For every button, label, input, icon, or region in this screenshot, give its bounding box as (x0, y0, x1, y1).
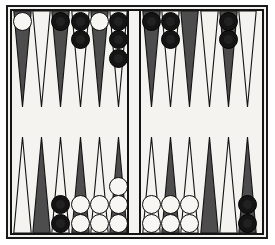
quadrant-top-right (141, 11, 256, 122)
quadrant-bottom-right (141, 122, 256, 233)
checker-black[interactable] (109, 30, 128, 49)
checker-white[interactable] (90, 12, 109, 31)
checker-white[interactable] (71, 195, 90, 214)
checker-black[interactable] (238, 195, 257, 214)
checker-black[interactable] (71, 30, 90, 49)
point-triangle (14, 137, 31, 233)
checker-white[interactable] (142, 195, 161, 214)
point-12[interactable] (238, 11, 257, 107)
checker-black[interactable] (109, 12, 128, 31)
checker-black[interactable] (142, 12, 161, 31)
checker-white[interactable] (180, 195, 199, 214)
point-2[interactable] (32, 11, 51, 107)
checker-white[interactable] (90, 214, 109, 233)
point-14[interactable] (32, 137, 51, 233)
checker-black[interactable] (109, 49, 128, 68)
checker-white[interactable] (161, 195, 180, 214)
point-triangle (33, 11, 50, 107)
checker-black[interactable] (219, 30, 238, 49)
checker-black[interactable] (161, 30, 180, 49)
checker-black[interactable] (219, 12, 238, 31)
checker-white[interactable] (109, 177, 128, 196)
checker-white[interactable] (180, 214, 199, 233)
quadrant-bottom-left (12, 122, 127, 233)
checker-black[interactable] (161, 12, 180, 31)
point-13[interactable] (13, 137, 32, 233)
checker-white[interactable] (90, 195, 109, 214)
point-triangle (201, 11, 218, 107)
point-triangle (239, 11, 256, 107)
point-22[interactable] (200, 137, 219, 233)
checker-white[interactable] (13, 12, 32, 31)
checker-white[interactable] (109, 214, 128, 233)
checker-white[interactable] (142, 214, 161, 233)
center-bar[interactable] (127, 11, 141, 233)
checker-white[interactable] (161, 214, 180, 233)
point-triangle (220, 137, 237, 233)
checker-black[interactable] (238, 214, 257, 233)
quadrant-top-left (12, 11, 127, 122)
backgammon-board (0, 0, 275, 245)
checker-white[interactable] (71, 214, 90, 233)
checker-black[interactable] (51, 195, 70, 214)
board-playfield (12, 11, 262, 233)
point-triangle (33, 137, 50, 233)
point-23[interactable] (219, 137, 238, 233)
point-10[interactable] (200, 11, 219, 107)
checker-white[interactable] (109, 195, 128, 214)
checker-black[interactable] (51, 12, 70, 31)
checker-black[interactable] (71, 12, 90, 31)
point-triangle (181, 11, 198, 107)
point-triangle (201, 137, 218, 233)
point-9[interactable] (180, 11, 199, 107)
checker-black[interactable] (51, 214, 70, 233)
